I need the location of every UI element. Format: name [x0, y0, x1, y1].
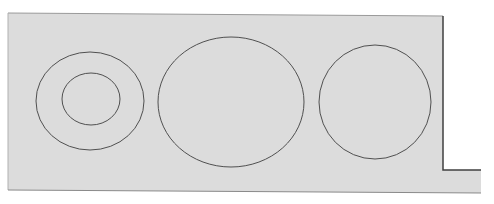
diagram-canvas [0, 0, 494, 204]
panel-right-step-edge [443, 16, 481, 170]
